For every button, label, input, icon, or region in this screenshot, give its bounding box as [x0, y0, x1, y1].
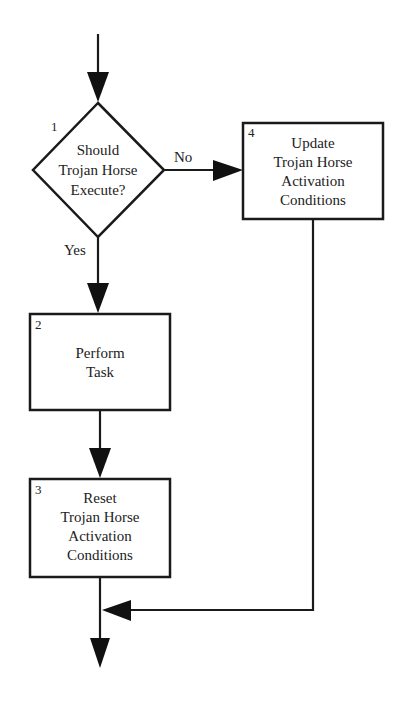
edge-reset-to-exit [90, 577, 110, 668]
decision-node-1: 1 Should Trojan Horse Execute? [33, 103, 164, 237]
arrow-left-icon [102, 600, 131, 621]
update-text-line-3: Activation [281, 173, 345, 189]
update-text-line-4: Conditions [280, 192, 346, 208]
node-number: 3 [35, 482, 42, 497]
arrow-down-icon [90, 638, 110, 668]
update-text-line-1: Update [291, 135, 335, 151]
arrow-down-icon [87, 72, 109, 102]
decision-text-line-2: Trojan Horse [58, 162, 137, 178]
node-number: 2 [35, 317, 42, 332]
node-number: 1 [51, 119, 58, 134]
arrow-right-icon [213, 160, 243, 181]
edge-perform-to-reset [89, 410, 111, 478]
no-label: No [174, 149, 192, 165]
perform-text-line-1: Perform [75, 345, 124, 361]
decision-text-line-3: Execute? [71, 182, 126, 198]
edge-yes-to-perform: Yes [64, 237, 109, 313]
reset-text-line-3: Activation [68, 528, 132, 544]
process-node-3: 3 Reset Trojan Horse Activation Conditio… [30, 479, 170, 577]
perform-text-line-2: Task [86, 364, 115, 380]
yes-label: Yes [64, 242, 86, 258]
update-text-line-2: Trojan Horse [273, 154, 352, 170]
reset-text-line-2: Trojan Horse [60, 509, 139, 525]
process-node-2: 2 Perform Task [30, 314, 170, 410]
arrow-down-icon [89, 448, 111, 478]
arrow-down-icon [87, 283, 109, 313]
reset-text-line-1: Reset [83, 490, 117, 506]
decision-text-line-1: Should [77, 142, 120, 158]
node-number: 4 [248, 125, 255, 140]
process-node-4: 4 Update Trojan Horse Activation Conditi… [243, 123, 383, 219]
edge-start-to-decision [87, 34, 109, 102]
reset-text-line-4: Conditions [67, 547, 133, 563]
perform-box [30, 314, 170, 410]
flowchart-canvas: 1 Should Trojan Horse Execute? No 4 Upda… [0, 0, 405, 704]
flowchart-diagram: 1 Should Trojan Horse Execute? No 4 Upda… [0, 0, 405, 704]
edge-no-to-update: No [164, 149, 243, 181]
